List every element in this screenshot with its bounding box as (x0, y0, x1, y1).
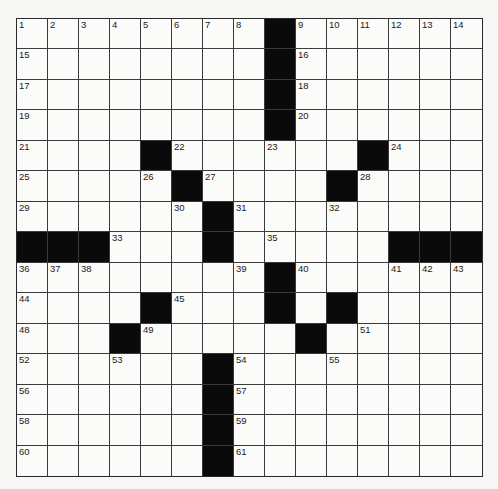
grid-cell[interactable] (110, 110, 141, 140)
grid-cell[interactable]: 24 (389, 141, 420, 171)
grid-cell[interactable] (358, 354, 389, 384)
grid-cell[interactable] (327, 446, 358, 476)
grid-cell[interactable]: 10 (327, 19, 358, 49)
grid-cell[interactable] (234, 49, 265, 79)
grid-cell[interactable] (420, 354, 451, 384)
grid-cell[interactable] (358, 49, 389, 79)
grid-cell[interactable] (203, 49, 234, 79)
grid-cell[interactable] (265, 171, 296, 201)
grid-cell[interactable] (358, 110, 389, 140)
grid-cell[interactable] (389, 110, 420, 140)
grid-cell[interactable] (389, 446, 420, 476)
grid-cell[interactable] (203, 324, 234, 354)
grid-cell[interactable] (358, 232, 389, 262)
grid-cell[interactable]: 40 (296, 263, 327, 293)
grid-cell[interactable] (203, 263, 234, 293)
grid-cell[interactable] (79, 324, 110, 354)
grid-cell[interactable] (420, 141, 451, 171)
grid-cell[interactable] (172, 80, 203, 110)
grid-cell[interactable] (420, 415, 451, 445)
grid-cell[interactable] (327, 415, 358, 445)
grid-cell[interactable] (172, 385, 203, 415)
grid-cell[interactable]: 29 (17, 202, 48, 232)
grid-cell[interactable] (296, 385, 327, 415)
grid-cell[interactable] (358, 415, 389, 445)
grid-cell[interactable] (327, 80, 358, 110)
grid-cell[interactable] (110, 263, 141, 293)
grid-cell[interactable] (389, 202, 420, 232)
grid-cell[interactable] (110, 171, 141, 201)
grid-cell[interactable]: 14 (451, 19, 482, 49)
grid-cell[interactable]: 35 (265, 232, 296, 262)
grid-cell[interactable] (48, 324, 79, 354)
grid-cell[interactable] (141, 232, 172, 262)
grid-cell[interactable] (296, 293, 327, 323)
grid-cell[interactable] (141, 354, 172, 384)
grid-cell[interactable] (203, 110, 234, 140)
grid-cell[interactable]: 5 (141, 19, 172, 49)
grid-cell[interactable] (420, 385, 451, 415)
grid-cell[interactable] (451, 110, 482, 140)
grid-cell[interactable] (172, 354, 203, 384)
grid-cell[interactable]: 36 (17, 263, 48, 293)
grid-cell[interactable] (141, 80, 172, 110)
grid-cell[interactable] (141, 110, 172, 140)
grid-cell[interactable]: 58 (17, 415, 48, 445)
grid-cell[interactable]: 22 (172, 141, 203, 171)
grid-cell[interactable]: 60 (17, 446, 48, 476)
grid-cell[interactable]: 32 (327, 202, 358, 232)
grid-cell[interactable] (296, 415, 327, 445)
grid-cell[interactable]: 33 (110, 232, 141, 262)
grid-cell[interactable] (296, 232, 327, 262)
grid-cell[interactable]: 9 (296, 19, 327, 49)
grid-cell[interactable]: 11 (358, 19, 389, 49)
grid-cell[interactable]: 7 (203, 19, 234, 49)
grid-cell[interactable] (234, 232, 265, 262)
grid-cell[interactable]: 16 (296, 49, 327, 79)
grid-cell[interactable]: 28 (358, 171, 389, 201)
grid-cell[interactable] (172, 446, 203, 476)
grid-cell[interactable]: 23 (265, 141, 296, 171)
grid-cell[interactable] (451, 354, 482, 384)
grid-cell[interactable] (48, 80, 79, 110)
grid-cell[interactable] (451, 293, 482, 323)
grid-cell[interactable] (389, 171, 420, 201)
grid-cell[interactable] (327, 141, 358, 171)
grid-cell[interactable] (451, 446, 482, 476)
grid-cell[interactable] (234, 141, 265, 171)
grid-cell[interactable] (203, 141, 234, 171)
grid-cell[interactable] (389, 385, 420, 415)
grid-cell[interactable] (141, 49, 172, 79)
grid-cell[interactable] (48, 202, 79, 232)
grid-cell[interactable] (296, 354, 327, 384)
grid-cell[interactable] (451, 49, 482, 79)
grid-cell[interactable]: 53 (110, 354, 141, 384)
grid-cell[interactable] (420, 110, 451, 140)
grid-cell[interactable] (110, 80, 141, 110)
grid-cell[interactable] (110, 202, 141, 232)
grid-cell[interactable] (234, 171, 265, 201)
grid-cell[interactable] (327, 324, 358, 354)
grid-cell[interactable] (48, 293, 79, 323)
grid-cell[interactable]: 57 (234, 385, 265, 415)
grid-cell[interactable] (172, 263, 203, 293)
grid-cell[interactable] (110, 141, 141, 171)
grid-cell[interactable]: 49 (141, 324, 172, 354)
grid-cell[interactable] (296, 202, 327, 232)
grid-cell[interactable]: 15 (17, 49, 48, 79)
grid-cell[interactable]: 25 (17, 171, 48, 201)
grid-cell[interactable] (327, 110, 358, 140)
grid-cell[interactable]: 31 (234, 202, 265, 232)
grid-cell[interactable] (265, 202, 296, 232)
grid-cell[interactable]: 45 (172, 293, 203, 323)
grid-cell[interactable] (79, 446, 110, 476)
grid-cell[interactable] (48, 171, 79, 201)
grid-cell[interactable]: 26 (141, 171, 172, 201)
grid-cell[interactable] (389, 293, 420, 323)
grid-cell[interactable] (451, 202, 482, 232)
grid-cell[interactable] (451, 415, 482, 445)
grid-cell[interactable] (172, 49, 203, 79)
grid-cell[interactable]: 19 (17, 110, 48, 140)
grid-cell[interactable] (327, 385, 358, 415)
grid-cell[interactable] (296, 171, 327, 201)
